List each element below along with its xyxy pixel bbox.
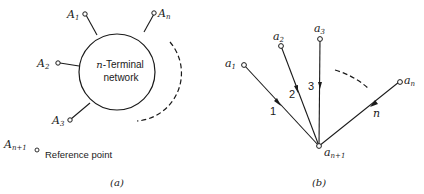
edge-n-arrow-icon [370, 100, 378, 107]
label-A2: A2 [36, 57, 50, 71]
label-a1: a1 [225, 57, 236, 71]
edge-3-arrow-icon [318, 82, 322, 89]
reference-node [35, 148, 39, 152]
caption-a: (a) [110, 177, 124, 188]
label-A-n-plus-1: An+1 [3, 138, 27, 152]
node-a1 [242, 63, 247, 68]
reference-point-label: Reference point [45, 149, 112, 160]
terminal-a2-node [56, 61, 60, 65]
label-An: An [157, 7, 171, 21]
node-a3 [318, 37, 323, 42]
edge-2 [281, 46, 319, 146]
diagram-canvas: A1 An A2 A3 n-Terminal network An+1 Refe… [0, 0, 424, 194]
network-label-line1: n-Terminal [96, 59, 144, 70]
label-A3: A3 [51, 114, 65, 128]
label-an: an [404, 74, 416, 88]
terminal-a2-lead [60, 63, 79, 66]
terminal-an-lead [144, 14, 154, 32]
edge-label-3: 3 [308, 80, 314, 92]
edge-n [319, 82, 399, 146]
terminal-an-node [152, 11, 156, 15]
node-a2 [279, 44, 284, 49]
label-a3: a3 [314, 22, 326, 36]
edge-label-n: n [373, 107, 380, 120]
caption-b: (b) [312, 177, 326, 188]
panel-b: a1 a2 a3 an an+1 1 2 3 n (b) [225, 22, 416, 188]
terminal-a3-node [68, 118, 72, 122]
terminal-a1-node [83, 12, 87, 16]
continuation-dashed-arc [137, 42, 181, 121]
edge-label-2: 2 [289, 88, 295, 100]
node-an [398, 80, 403, 85]
terminal-a3-lead [71, 103, 90, 119]
label-A1: A1 [66, 8, 79, 22]
edge-label-1: 1 [270, 105, 276, 117]
label-a2: a2 [273, 30, 285, 44]
continuation-dashed-arc [335, 70, 369, 89]
node-a-n-plus-1 [317, 144, 322, 149]
edge-1 [244, 65, 319, 146]
panel-a: A1 An A2 A3 n-Terminal network An+1 Refe… [3, 7, 181, 188]
edge-3 [319, 39, 320, 146]
network-label-line2: network [103, 72, 139, 83]
label-a-n-plus-1: an+1 [324, 146, 345, 160]
terminal-a1-lead [86, 15, 97, 35]
